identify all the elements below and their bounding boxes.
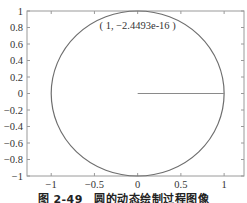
y-tick-label: −0.6 — [4, 138, 23, 149]
y-tick-label: −0.8 — [4, 154, 23, 165]
figure-caption: 图 2-49 圆的动态绘制过程图像 — [0, 190, 247, 203]
plot-area — [51, 11, 224, 176]
y-tick-label: 1 — [18, 6, 23, 17]
y-tick-label: 0.2 — [10, 72, 23, 83]
y-tick-label: 0.4 — [10, 55, 24, 66]
point-annotation: ( 1, −2.4493e-16 ) — [100, 20, 177, 32]
x-axis-ticks: −1−0.500.51 — [46, 11, 227, 190]
circle-plot-figure: 10.80.60.40.20−0.2−0.4−0.6−0.8−1 −1−0.50… — [0, 0, 247, 203]
y-tick-label: 0.6 — [10, 39, 23, 50]
y-tick-label: −1 — [12, 171, 23, 182]
y-tick-label: −0.2 — [4, 105, 23, 116]
y-tick-label: 0.8 — [10, 22, 23, 33]
x-tick-label: 0.5 — [174, 179, 187, 190]
x-tick-label: 1 — [221, 179, 226, 190]
y-tick-label: −0.4 — [4, 121, 24, 132]
y-tick-label: 0 — [18, 88, 23, 99]
x-tick-label: 0 — [135, 179, 140, 190]
x-tick-label: −0.5 — [85, 179, 104, 190]
x-tick-label: −1 — [46, 179, 57, 190]
